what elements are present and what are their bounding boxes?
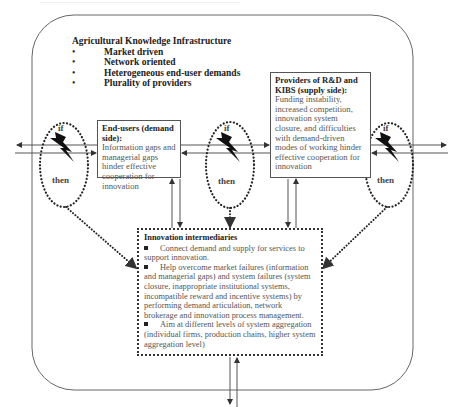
intermediaries-item: Aim at different levels of system aggreg… xyxy=(144,320,316,349)
square-bullet-icon xyxy=(144,322,148,326)
intermediaries-item-text: Connect demand and supply for services t… xyxy=(144,244,305,263)
condition-then-middle: then xyxy=(218,176,235,186)
square-bullet-icon xyxy=(144,246,148,250)
condition-if-right: if xyxy=(383,123,389,133)
intermediaries-heading: Innovation intermediaries xyxy=(144,233,316,243)
providers-box: Providers of R&D and KIBS (supply side):… xyxy=(270,72,371,178)
dotted-link-right xyxy=(323,207,387,268)
intermediaries-item-text: Aim at different levels of system aggreg… xyxy=(144,320,315,348)
intermediaries-item: Connect demand and supply for services t… xyxy=(144,244,316,263)
end-users-heading: End-users (demand side): xyxy=(102,124,176,143)
lightning-bolt-icon-middle xyxy=(216,132,240,162)
infrastructure-bullet: Heterogeneous end-user demands xyxy=(72,68,240,79)
innovation-intermediaries-box: Innovation intermediaries Connect demand… xyxy=(137,228,323,356)
lightning-bolt-icon-right xyxy=(375,132,399,162)
lightning-bolt-icon-left xyxy=(50,132,74,162)
condition-if-middle: if xyxy=(224,123,230,133)
intermediaries-item-text: Help overcome market failures (informati… xyxy=(144,263,311,320)
providers-heading: Providers of R&D and KIBS (supply side): xyxy=(275,76,366,95)
condition-then-left: then xyxy=(52,175,69,185)
intermediaries-item: Help overcome market failures (informati… xyxy=(144,263,316,321)
infrastructure-bullet: Network oriented xyxy=(72,57,240,68)
square-bullet-icon xyxy=(144,265,148,269)
condition-then-right: then xyxy=(377,175,394,185)
infrastructure-bullets: Market driven Network oriented Heterogen… xyxy=(72,47,240,89)
end-users-box: End-users (demand side): Information gap… xyxy=(97,120,181,178)
condition-ellipse-left xyxy=(40,123,88,207)
infrastructure-bullet: Plurality of providers xyxy=(72,78,240,89)
dotted-link-left xyxy=(66,207,136,268)
condition-if-left: if xyxy=(58,123,64,133)
infrastructure-bullet: Market driven xyxy=(72,47,240,58)
condition-ellipse-right xyxy=(365,123,413,207)
infrastructure-block: Agricultural Knowledge Infrastructure Ma… xyxy=(72,36,240,89)
condition-ellipse-middle xyxy=(206,122,254,208)
providers-body: Funding instability, increased competiti… xyxy=(275,95,366,172)
end-users-body: Information gaps and managerial gaps hin… xyxy=(102,143,176,191)
infrastructure-title: Agricultural Knowledge Infrastructure xyxy=(72,36,240,47)
